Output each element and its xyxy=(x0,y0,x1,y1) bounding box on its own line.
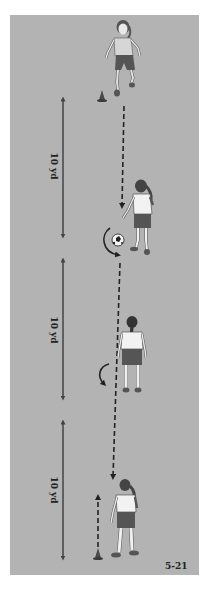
distance-label-3: 10 yd xyxy=(49,476,59,504)
drill-diagram: 10 yd 10 yd 10 yd xyxy=(0,0,219,593)
distance-label-1: 10 yd xyxy=(49,152,59,180)
distance-label-2: 10 yd xyxy=(49,316,59,344)
figure-number: 5-21 xyxy=(165,561,188,571)
soccer-ball xyxy=(112,234,124,246)
